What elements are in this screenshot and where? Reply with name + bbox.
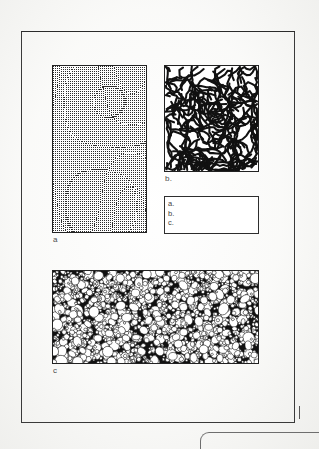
page-edge-corner xyxy=(200,432,319,449)
panel-b-label: b. xyxy=(165,174,172,183)
panel-a xyxy=(52,65,147,233)
panel-c xyxy=(52,270,259,364)
caption-line-c: c. xyxy=(168,218,258,228)
panel-c-label: c xyxy=(53,366,57,375)
margin-tick-mark xyxy=(299,406,300,419)
caption-line-b: b. xyxy=(168,209,258,219)
panel-b xyxy=(164,65,259,172)
document-page: a b. a. b. c. c xyxy=(0,0,319,449)
caption-line-a: a. xyxy=(168,199,258,209)
caption-box: a. b. c. xyxy=(164,196,259,234)
dot-lattice-texture xyxy=(53,66,146,232)
panel-a-label: a xyxy=(53,235,58,244)
